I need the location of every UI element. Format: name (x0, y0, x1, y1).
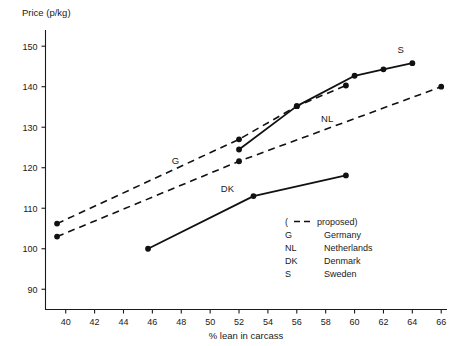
legend-proposed-label: proposed) (317, 217, 358, 227)
chart-container: Price (p/kg) 90100110120130140150 404244… (0, 0, 456, 346)
data-point-g (54, 221, 60, 227)
y-tick-label: 120 (22, 163, 37, 173)
legend-country-denmark: Denmark (324, 256, 361, 266)
y-tick-label: 110 (23, 204, 37, 214)
data-point-dk (343, 173, 349, 179)
x-tick-label: 58 (321, 317, 331, 327)
data-point-s (352, 73, 358, 79)
series-label-g: G (172, 155, 179, 166)
x-tick-label: 66 (436, 317, 446, 327)
series-line-dk (148, 175, 346, 248)
data-point-dk (251, 193, 257, 199)
x-tick-label: 56 (292, 317, 302, 327)
legend-code-s: S (285, 269, 291, 279)
x-axis-ticks: 4042444648505254565860626466 (61, 310, 447, 327)
x-tick-label: 52 (234, 317, 244, 327)
series-line-nl (57, 87, 441, 237)
data-point-g (343, 83, 349, 89)
x-tick-label: 54 (263, 317, 273, 327)
data-point-g (236, 136, 242, 142)
x-tick-label: 46 (147, 317, 157, 327)
data-point-s (294, 103, 300, 109)
price-vs-lean-line-chart: Price (p/kg) 90100110120130140150 404244… (0, 0, 456, 346)
x-tick-label: 62 (378, 317, 388, 327)
legend-country-netherlands: Netherlands (324, 243, 373, 253)
x-tick-label: 48 (176, 317, 186, 327)
y-tick-label: 150 (22, 42, 37, 52)
x-tick-label: 50 (205, 317, 215, 327)
y-tick-label: 100 (22, 244, 37, 254)
data-point-nl (54, 234, 60, 240)
data-point-nl (438, 84, 444, 90)
series-annotations: GNLDKS (172, 44, 404, 194)
series-line-g (57, 85, 346, 223)
legend-code-g: G (285, 230, 292, 240)
y-tick-label: 140 (22, 82, 37, 92)
x-tick-label: 64 (407, 317, 417, 327)
series-label-nl: NL (321, 113, 333, 124)
x-tick-label: 60 (350, 317, 360, 327)
legend-proposed-paren: ( (285, 217, 288, 227)
y-tick-label: 130 (22, 123, 37, 133)
data-point-s (236, 147, 242, 153)
data-point-s (381, 66, 387, 72)
x-tick-label: 44 (118, 317, 128, 327)
y-axis-ticks: 90100110120130140150 (22, 42, 45, 295)
legend-country-germany: Germany (324, 230, 362, 240)
x-tick-label: 42 (90, 317, 100, 327)
data-point-s (409, 60, 415, 66)
series-label-dk: DK (221, 183, 235, 194)
data-point-dk (145, 246, 151, 252)
data-series-layer (57, 63, 441, 249)
x-axis-title: % lean in carcass (209, 330, 284, 341)
chart-axes (46, 30, 448, 310)
y-tick-label: 90 (27, 285, 37, 295)
legend-code-nl: NL (285, 243, 297, 253)
y-axis-title: Price (p/kg) (22, 7, 71, 18)
data-point-markers (54, 60, 444, 251)
series-label-s: S (398, 44, 404, 55)
legend-code-dk: DK (285, 256, 298, 266)
legend-country-sweden: Sweden (324, 269, 357, 279)
x-tick-label: 40 (61, 317, 71, 327)
data-point-nl (236, 158, 242, 164)
chart-legend: ( proposed) G Germany NL Netherlands DK … (285, 217, 373, 279)
